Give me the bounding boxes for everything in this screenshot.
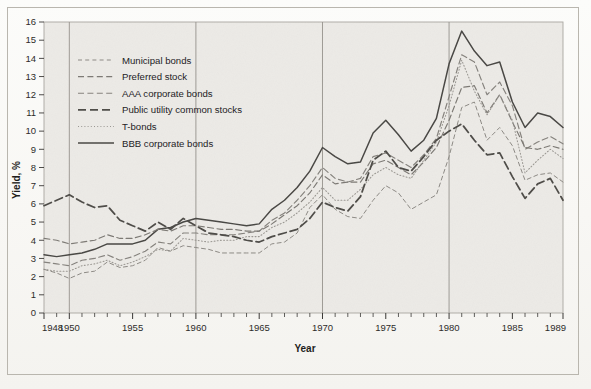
figure-outer-border (7, 7, 579, 375)
